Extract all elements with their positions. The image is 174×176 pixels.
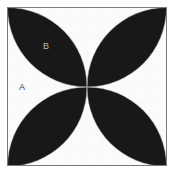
geometric-figure-svg bbox=[0, 0, 174, 176]
region-label-b: B bbox=[43, 42, 49, 51]
petal-group bbox=[0, 0, 174, 176]
geometric-figure-container: A B bbox=[0, 0, 174, 176]
region-label-a: A bbox=[19, 83, 25, 92]
